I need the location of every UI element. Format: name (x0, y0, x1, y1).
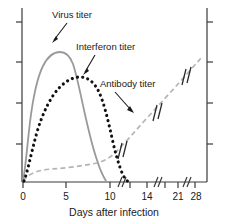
x-axis-tick-labels: 0 5 10 14 21 28 (20, 191, 202, 202)
series-antibody-titer (23, 58, 201, 181)
annotation-virus-titer: Virus titer (52, 9, 92, 43)
x-axis-title: Days after infection (69, 206, 159, 218)
virus-titer-curve (23, 52, 106, 181)
x-tick-label-5: 5 (63, 191, 69, 202)
antibody-titer-line (23, 58, 201, 181)
annotation-interferon-titer: Interferon titer (76, 41, 135, 75)
x-tick-label-10: 10 (104, 191, 116, 202)
antibody-titer-label: Antibody titer (100, 78, 155, 89)
virus-infection-titer-chart: 0 5 10 14 21 28 (0, 0, 229, 224)
y-axis-ticks-left (16, 22, 22, 144)
antibody-hash-3-a (182, 69, 186, 85)
annotation-antibody-titer: Antibody titer (100, 78, 155, 113)
virus-titer-arrow-head (52, 36, 58, 43)
antibody-hash-2-a (153, 105, 157, 121)
antibody-hash-2-b (158, 103, 162, 119)
series-virus-titer (23, 52, 106, 181)
x-tick-label-0: 0 (20, 191, 26, 202)
antibody-hash-1-b (123, 141, 127, 157)
x-tick-label-28: 28 (190, 191, 202, 202)
y-axis-ticks-right (207, 22, 213, 144)
x-tick-label-14: 14 (141, 191, 153, 202)
chart-canvas: 0 5 10 14 21 28 (0, 0, 229, 224)
interferon-titer-curve (24, 77, 129, 182)
series-interferon-titer (24, 77, 129, 182)
virus-titer-label: Virus titer (52, 9, 92, 20)
x-axis-ticks (23, 182, 195, 188)
x-tick-label-21: 21 (172, 191, 184, 202)
antibody-titer-arrow-shaft (115, 92, 131, 110)
antibody-hash-3-b (187, 67, 191, 83)
interferon-titer-label: Interferon titer (76, 41, 135, 52)
axis-frame (22, 8, 207, 182)
interferon-titer-arrow-head (83, 68, 89, 75)
antibody-hash-1-a (118, 143, 122, 159)
